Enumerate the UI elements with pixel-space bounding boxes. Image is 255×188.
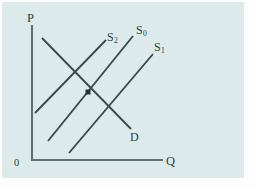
supply-s2-subscript: 2 (114, 36, 118, 45)
y-axis-label-price: P (27, 12, 34, 25)
supply-s1-subscript: 1 (161, 46, 165, 55)
supply-curve-s1 (69, 54, 153, 153)
equilibrium-point (86, 90, 91, 95)
supply-curve-s0 (48, 36, 133, 141)
supply-s0-letter: S (136, 23, 143, 37)
demand-curve (42, 38, 131, 129)
demand-curve-label: D (130, 131, 139, 143)
supply-curve-s2 (35, 40, 106, 113)
supply-s1-letter: S (154, 40, 161, 54)
supply-demand-chart (0, 0, 255, 188)
supply-s2-letter: S (107, 30, 114, 44)
figure-root: P Q 0 S2 S0 S1 D (0, 0, 255, 188)
x-axis-label-quantity: Q (166, 155, 175, 168)
supply-curve-s2-label: S2 (107, 31, 117, 43)
supply-s0-subscript: 0 (143, 29, 147, 38)
supply-curve-s0-label: S0 (136, 24, 146, 36)
supply-curve-s1-label: S1 (154, 41, 164, 53)
origin-label: 0 (14, 158, 19, 169)
